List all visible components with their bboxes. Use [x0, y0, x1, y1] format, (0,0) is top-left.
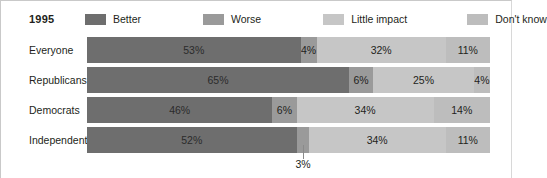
bar-segment-value: 25% [413, 74, 434, 86]
bar-segment-value: 11% [458, 44, 478, 56]
chart-row: Everyone53%4%32%11% [1, 37, 513, 67]
bar-segment-don-t-know: 11% [446, 127, 490, 153]
bar-segment-value: 32% [371, 44, 392, 56]
bar-segment-value: 46% [169, 104, 190, 116]
bar-segment-little-impact: 25% [373, 67, 474, 93]
bar-segment-value: 34% [367, 134, 388, 146]
callout-leader-line [303, 145, 304, 159]
legend-swatch-little_impact [323, 14, 344, 25]
bar-segment-little-impact: 32% [317, 37, 446, 63]
bar-segment-don-t-know: 4% [474, 67, 490, 93]
bar-segment-value: 6% [353, 74, 368, 86]
bar-segment-value: 11% [458, 134, 478, 146]
chart-legend: BetterWorseLittle impactDon't know [85, 9, 547, 29]
bar-segment-value: 4% [301, 44, 316, 56]
bar-segment-little-impact: 34% [297, 97, 434, 123]
callout-label: 3% [295, 158, 310, 170]
legend-item-worse[interactable]: Worse [203, 9, 261, 29]
legend-label-better: Better [113, 13, 141, 25]
stacked-bar: 46%6%34%14% [87, 97, 490, 123]
bar-segment-better: 46% [87, 97, 272, 123]
legend-item-dont_know[interactable]: Don't know [467, 9, 547, 29]
bar-segment-better: 65% [87, 67, 349, 93]
bar-segment-worse: 4% [301, 37, 317, 63]
row-label-independents: Independents [29, 127, 93, 153]
chart-row: Republicans65%6%25%4% [1, 67, 513, 97]
legend-label-dont_know: Don't know [495, 13, 547, 25]
page-title: 1995 [29, 9, 54, 29]
bar-segment-value: 53% [183, 44, 204, 56]
bar-segment-better: 53% [87, 37, 301, 63]
bar-segment-value: 14% [451, 104, 472, 116]
row-label-republicans: Republicans [29, 67, 87, 93]
bar-segment-worse: 6% [272, 97, 296, 123]
bar-segment-value: 6% [277, 104, 292, 116]
bar-segment-worse: 6% [349, 67, 373, 93]
legend-swatch-worse [203, 14, 224, 25]
stacked-bar: 52%34%11% [87, 127, 490, 153]
row-label-democrats: Democrats [29, 97, 80, 123]
legend-swatch-better [85, 14, 106, 25]
chart-header: 1995 BetterWorseLittle impactDon't know [1, 9, 513, 29]
bar-segment-better: 52% [87, 127, 297, 153]
chart-row: Democrats46%6%34%14% [1, 97, 513, 127]
legend-item-little_impact[interactable]: Little impact [323, 9, 407, 29]
bar-segment-value: 65% [207, 74, 228, 86]
bar-segment-don-t-know: 14% [434, 97, 490, 123]
stacked-bar: 53%4%32%11% [87, 37, 490, 63]
bar-segment-little-impact: 34% [309, 127, 446, 153]
stacked-bar: 65%6%25%4% [87, 67, 490, 93]
legend-swatch-dont_know [467, 14, 488, 25]
legend-label-worse: Worse [231, 13, 261, 25]
bar-segment-don-t-know: 11% [446, 37, 490, 63]
chart-row: Independents52%34%11% [1, 127, 513, 157]
legend-item-better[interactable]: Better [85, 9, 141, 29]
bar-segment-value: 52% [181, 134, 202, 146]
bar-segment-value: 34% [355, 104, 376, 116]
legend-label-little_impact: Little impact [351, 13, 407, 25]
bar-segment-value: 4% [474, 74, 489, 86]
chart-plot-area: Everyone53%4%32%11%Republicans65%6%25%4%… [1, 37, 513, 157]
row-label-everyone: Everyone [29, 37, 73, 63]
